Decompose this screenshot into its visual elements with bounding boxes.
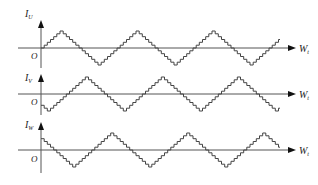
y-label-iw: IW bbox=[24, 119, 34, 131]
x-label-iv: Wt bbox=[299, 89, 309, 101]
y-axis-arrow-iw bbox=[38, 122, 44, 130]
origin-label-iu: O bbox=[31, 51, 38, 61]
waveform-diagram: IU O Wt IV O Wt IW O Wt bbox=[0, 0, 318, 185]
x-axis-arrow-iu bbox=[288, 45, 296, 51]
y-label-iu: IU bbox=[24, 8, 33, 20]
origin-label-iv: O bbox=[31, 97, 38, 107]
y-label-iv: IV bbox=[24, 72, 33, 84]
panel-iv: IV O Wt bbox=[18, 72, 309, 115]
y-axis-arrow-iv bbox=[38, 74, 44, 82]
y-axis-arrow-iu bbox=[38, 20, 44, 28]
x-axis-arrow-iw bbox=[288, 147, 296, 153]
x-axis-arrow-iv bbox=[288, 91, 296, 97]
panel-iw: IW O Wt bbox=[18, 119, 309, 173]
panel-iu: IU O Wt bbox=[18, 8, 309, 68]
origin-label-iw: O bbox=[31, 154, 38, 164]
x-label-iw: Wt bbox=[299, 145, 309, 157]
x-label-iu: Wt bbox=[299, 43, 309, 55]
